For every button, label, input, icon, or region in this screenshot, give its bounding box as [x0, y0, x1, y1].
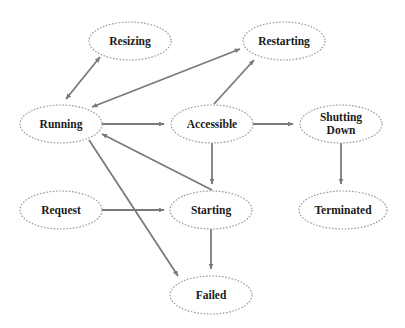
node-accessible: Accessible: [171, 105, 253, 143]
node-label: Failed: [196, 289, 227, 301]
node-shutting-down: ShuttingDown: [300, 105, 382, 143]
node-request: Request: [20, 191, 102, 229]
node-label: Accessible: [187, 118, 237, 130]
nodes-layer: ResizingRestartingRunningAccessibleShutt…: [20, 22, 387, 314]
edge-accessible-to-restarting: [214, 60, 254, 104]
node-label: Terminated: [314, 204, 372, 216]
node-label: Shutting: [320, 111, 362, 124]
state-diagram: ResizingRestartingRunningAccessibleShutt…: [0, 0, 405, 328]
node-label: Running: [40, 118, 83, 131]
edge-starting-to-running: [102, 134, 212, 190]
node-restarting: Restarting: [243, 22, 325, 60]
node-running: Running: [20, 105, 102, 143]
node-label: Resizing: [109, 35, 151, 48]
node-terminated: Terminated: [299, 191, 387, 229]
node-label: Down: [327, 124, 356, 136]
node-failed: Failed: [170, 276, 252, 314]
node-starting: Starting: [170, 191, 252, 229]
node-label: Starting: [191, 204, 232, 217]
node-label: Request: [41, 204, 81, 217]
edge-running-to-resizing: [66, 57, 100, 99]
node-resizing: Resizing: [89, 22, 171, 60]
edges-layer: [66, 49, 341, 276]
node-label: Restarting: [258, 35, 310, 48]
